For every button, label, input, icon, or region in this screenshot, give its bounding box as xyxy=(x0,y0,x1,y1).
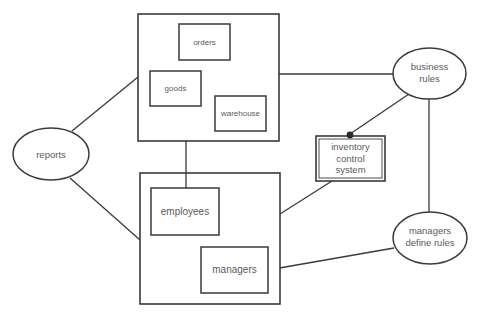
managers-define-rules-label-line-1: managers xyxy=(409,225,451,236)
node-orders[interactable]: orders xyxy=(179,24,230,60)
managers-define-rules-label-line-2: define rules xyxy=(405,237,454,248)
node-business-rules[interactable]: business rules xyxy=(393,48,466,99)
managers-label: managers xyxy=(212,264,256,275)
node-managers[interactable]: managers xyxy=(201,247,268,293)
node-managers-define-rules[interactable]: managers define rules xyxy=(393,212,467,264)
edge-managers-managers-define-rules xyxy=(268,248,394,270)
edge-reports-top-group xyxy=(72,77,138,131)
inventory-diagram: orders goods warehouse employees manager… xyxy=(0,0,484,316)
node-goods[interactable]: goods xyxy=(150,71,201,106)
business-rules-label-line-1: business xyxy=(411,61,449,72)
node-employees[interactable]: employees xyxy=(151,188,219,235)
edge-inventory-business-rules xyxy=(350,94,409,134)
inventory-label-line-3: system xyxy=(335,164,365,175)
goods-label: goods xyxy=(165,84,187,93)
edge-reports-bottom-group xyxy=(70,178,140,240)
node-reports[interactable]: reports xyxy=(13,128,89,180)
node-warehouse[interactable]: warehouse xyxy=(215,96,266,131)
edge-inventory-bottom-group xyxy=(280,181,332,214)
inventory-label-line-1: inventory xyxy=(331,141,370,152)
inventory-label-line-2: control xyxy=(336,153,365,164)
warehouse-label: warehouse xyxy=(220,109,261,118)
orders-label: orders xyxy=(193,38,216,47)
node-inventory-control-system[interactable]: inventory control system xyxy=(316,136,385,181)
reports-label: reports xyxy=(36,149,66,160)
connector-dot-icon xyxy=(347,132,354,139)
business-rules-label-line-2: rules xyxy=(419,73,440,84)
employees-label: employees xyxy=(161,206,209,217)
